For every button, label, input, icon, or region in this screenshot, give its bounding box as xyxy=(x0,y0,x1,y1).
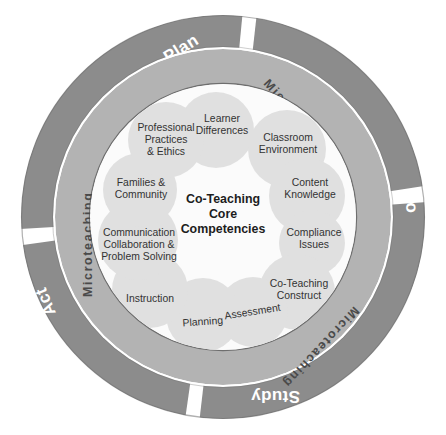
svg-text:Classroom: Classroom xyxy=(263,132,313,143)
svg-text:Compliance: Compliance xyxy=(287,227,342,238)
svg-text:Problem Solving: Problem Solving xyxy=(101,251,177,262)
diagram-canvas: Plan Do Study Act Microteaching Microtea… xyxy=(0,0,446,435)
label-instruction: Instruction xyxy=(126,293,174,304)
label-families-community: Families & Community xyxy=(115,177,168,200)
svg-text:Co-Teaching: Co-Teaching xyxy=(270,278,329,289)
svg-text:Construct: Construct xyxy=(277,290,322,301)
svg-text:Communication: Communication xyxy=(103,227,175,238)
svg-text:Collaboration &: Collaboration & xyxy=(103,239,174,250)
svg-text:Core: Core xyxy=(209,207,237,221)
label-classroom-environment: Classroom Environment xyxy=(259,132,317,155)
svg-text:Learner: Learner xyxy=(204,113,240,124)
svg-text:& Ethics: & Ethics xyxy=(147,146,185,157)
svg-text:Issues: Issues xyxy=(299,239,329,250)
label-content-knowledge: Content Knowledge xyxy=(284,177,336,200)
label-communication: Communication Collaboration & Problem So… xyxy=(101,227,177,262)
svg-text:Content: Content xyxy=(292,177,329,188)
core-competencies-area: Learner Differences Classroom Environmen… xyxy=(90,84,356,352)
svg-text:Professional: Professional xyxy=(137,122,194,133)
pdsa-label-do: Do xyxy=(401,189,422,214)
label-co-teaching-construct: Co-Teaching Construct xyxy=(270,278,329,301)
svg-text:Competencies: Competencies xyxy=(181,222,266,236)
svg-text:Community: Community xyxy=(115,189,168,200)
svg-text:Families &: Families & xyxy=(117,177,166,188)
svg-text:Knowledge: Knowledge xyxy=(284,189,336,200)
svg-text:Differences: Differences xyxy=(196,125,248,136)
svg-text:Practices: Practices xyxy=(145,134,188,145)
co-teaching-competencies-diagram: Plan Do Study Act Microteaching Microtea… xyxy=(0,0,446,435)
svg-text:Co-Teaching: Co-Teaching xyxy=(186,192,260,206)
svg-text:Environment: Environment xyxy=(259,144,317,155)
